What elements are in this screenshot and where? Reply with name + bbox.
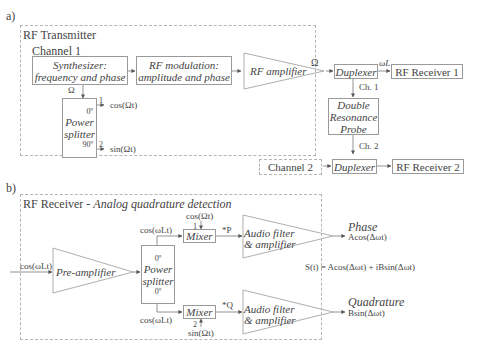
- audio-filter-top-line-2: & amplifier: [244, 239, 296, 250]
- ch1-label: Ch. 1: [359, 82, 379, 92]
- lo-bottom-label: sin(Ωt): [188, 328, 214, 338]
- probe-line-1: Double: [337, 99, 369, 111]
- audio-filter-top: Audio filter & amplifier: [244, 228, 296, 250]
- mixer-bottom-label: Mixer: [186, 306, 212, 318]
- phase-output: Acos(Δωt): [348, 232, 387, 242]
- ref-top-label: cos(ωLt): [140, 225, 172, 235]
- port-1-label: 1: [99, 96, 103, 105]
- power-splitter-rx: 0º Power splitter 0º: [141, 245, 175, 304]
- rf-amplifier-label: RF amplifier: [250, 65, 307, 77]
- splitter-line-1: Power: [65, 116, 94, 128]
- panel-a-label: a): [6, 10, 15, 22]
- omega-label-synth: Ω: [68, 85, 75, 95]
- synthesizer-block: Synthesizer: frequency and phase: [32, 56, 128, 85]
- audio-filter-bottom-line-2: & amplifier: [244, 315, 296, 326]
- ch2-label: Ch. 2: [359, 141, 379, 151]
- omega-label-amp: Ω: [311, 57, 318, 69]
- duplexer-1-label: Duplexer: [336, 66, 377, 78]
- power-splitter-tx: 0º Power splitter 90º: [62, 98, 97, 158]
- cos-output-label: cos(Ωt): [110, 100, 137, 110]
- rf-receiver-1-label: RF Receiver 1: [395, 66, 459, 78]
- quadrature-label: Quadrature: [348, 296, 404, 308]
- splitter-rx-line-2: splitter: [142, 275, 173, 287]
- q-label: *Q: [222, 300, 233, 310]
- audio-filter-bottom: Audio filter & amplifier: [244, 304, 296, 326]
- channel2-label: Channel 2: [268, 161, 313, 173]
- rf-modulation-title: RF modulation:: [149, 59, 219, 71]
- rf-receiver-2: RF Receiver 2: [392, 159, 464, 174]
- receiver-title-italic: Analog quadrature detection: [93, 197, 231, 211]
- duplexer-1: Duplexer: [334, 64, 378, 79]
- splitter-deg-90: 90º: [83, 140, 96, 149]
- synthesizer-title: Synthesizer:: [53, 59, 107, 71]
- lo-top-label: cos(Ωt): [186, 211, 213, 221]
- ref-bottom-label: cos(ωLt): [140, 315, 172, 325]
- splitter-rx-deg-bottom: 0º: [155, 287, 161, 296]
- splitter-line-2: splitter: [64, 128, 95, 140]
- duplexer-2: Duplexer: [332, 159, 377, 174]
- mixer-bottom: Mixer: [183, 305, 216, 319]
- receiver-title-plain: RF Receiver -: [23, 197, 93, 211]
- p-label: *P: [222, 225, 232, 235]
- sin-output-label: sin(Ωt): [110, 144, 136, 154]
- rf-modulation-subtitle: amplitude and phase: [138, 71, 230, 83]
- quadrature-output: Bsin(Δωt): [348, 308, 385, 318]
- port-2-label: 2: [99, 140, 103, 149]
- rf-receiver-2-label: RF Receiver 2: [396, 161, 460, 173]
- mixer-top-label: Mixer: [186, 230, 212, 242]
- synthesizer-subtitle: frequency and phase: [35, 71, 126, 83]
- splitter-rx-line-1: Power: [144, 263, 173, 275]
- pre-amplifier-label: Pre-amplifier: [56, 266, 115, 278]
- transmitter-title: RF Transmitter: [23, 29, 96, 41]
- rf-modulation-block: RF modulation: amplitude and phase: [136, 56, 232, 85]
- duplexer-2-label: Duplexer: [334, 161, 375, 173]
- input-signal-label: cos(ωLt): [20, 261, 52, 271]
- rf-receiver-1: RF Receiver 1: [391, 64, 463, 79]
- double-resonance-probe: Double Resonance Probe: [328, 98, 379, 135]
- probe-line-2: Resonance: [330, 111, 378, 123]
- splitter-rx-deg-top: 0º: [155, 254, 161, 263]
- mixer-top: Mixer: [183, 229, 216, 243]
- probe-line-3: Probe: [340, 123, 366, 135]
- receiver-title: RF Receiver - Analog quadrature detectio…: [23, 198, 232, 210]
- omega-l-label: ωL: [379, 58, 390, 68]
- panel-b-label: b): [6, 182, 16, 194]
- signal-equation: S(t) = Acos(Δωt) + iBsin(Δωt): [305, 262, 415, 272]
- splitter-deg-0: 0º: [87, 107, 96, 116]
